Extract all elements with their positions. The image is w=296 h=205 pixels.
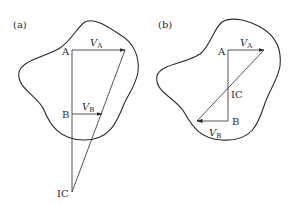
diagonal-va-tip-to-vb-tip (197, 50, 264, 121)
diagonal-ic-to-va-tip (72, 50, 125, 192)
panel-b: (b) A B IC VA VB (157, 19, 281, 140)
point-b-label: B (232, 116, 239, 127)
rigid-body-outline-b (157, 19, 281, 140)
point-a-label: A (217, 46, 226, 57)
velocity-a-label: VA (90, 37, 103, 50)
panel-b-label: (b) (158, 19, 172, 30)
velocity-b-label: VB (82, 101, 94, 114)
point-b-label: B (62, 109, 69, 120)
rigid-body-outline-a (19, 21, 139, 140)
velocity-a-label: VA (240, 37, 253, 50)
point-ic-label: IC (231, 89, 243, 100)
panel-a: (a) A B IC VA VB (13, 19, 138, 199)
point-ic-label: IC (57, 188, 69, 199)
instantaneous-center-diagram: (a) A B IC VA VB (b) A B IC VA VB (0, 0, 296, 205)
point-a-label: A (61, 46, 70, 57)
panel-a-label: (a) (13, 19, 27, 30)
